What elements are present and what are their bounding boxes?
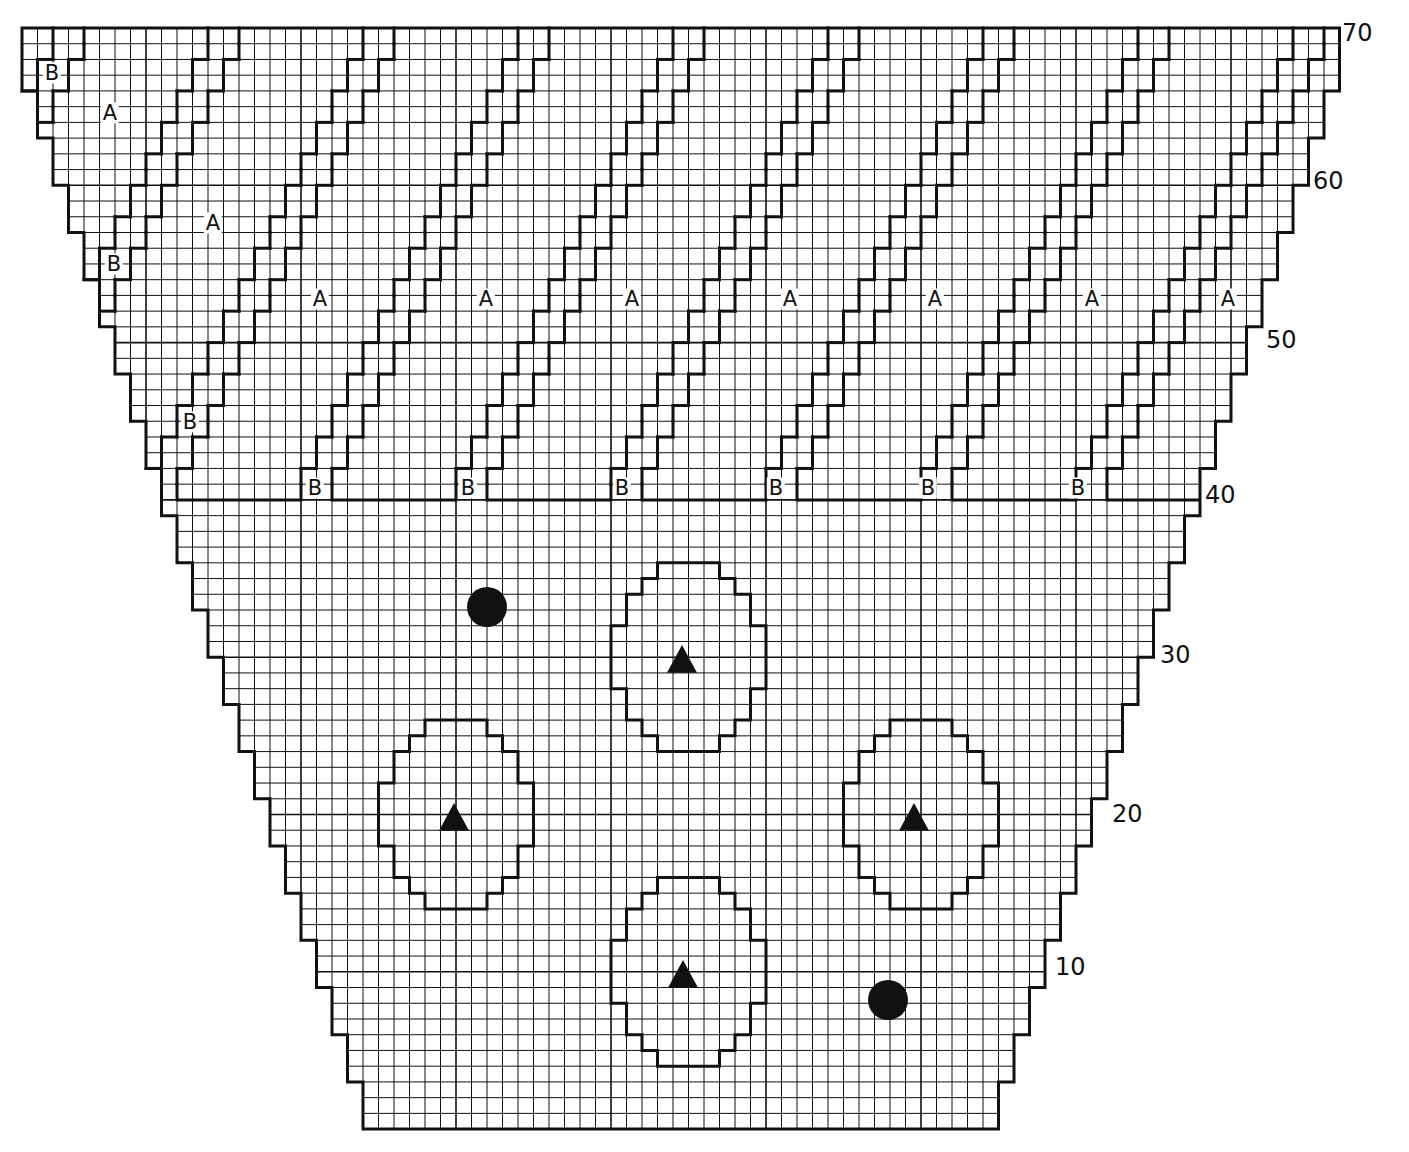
label-b: B [767,478,785,499]
label-a: A [926,289,944,310]
label-b: B [459,478,477,499]
label-a: A [623,289,641,310]
label-b: B [306,478,324,499]
dot-icon [868,980,908,1020]
label-b: B [181,412,199,433]
row-number-20: 20 [1112,802,1143,826]
grid-minor-lines [22,28,1340,1129]
triangle-icon [667,645,697,673]
row-number-70: 70 [1342,21,1373,45]
dot-icon [467,587,507,627]
label-b: B [919,478,937,499]
row-number-60: 60 [1313,169,1344,193]
label-a: A [311,289,329,310]
knitting-chart [0,0,1409,1152]
label-a: A [1083,289,1101,310]
label-b: B [43,63,61,84]
row-number-10: 10 [1055,955,1086,979]
label-b: B [1069,478,1087,499]
row-number-40: 40 [1205,483,1236,507]
label-a: A [204,213,222,234]
label-a: A [101,103,119,124]
triangle-icon [439,803,469,831]
label-b: B [613,478,631,499]
label-a: A [477,289,495,310]
row-number-50: 50 [1266,328,1297,352]
row-number-30: 30 [1160,643,1191,667]
label-a: A [781,289,799,310]
chart-symbols [439,587,929,1020]
label-a: A [1219,289,1237,310]
triangle-icon [899,803,929,831]
label-b: B [105,254,123,275]
